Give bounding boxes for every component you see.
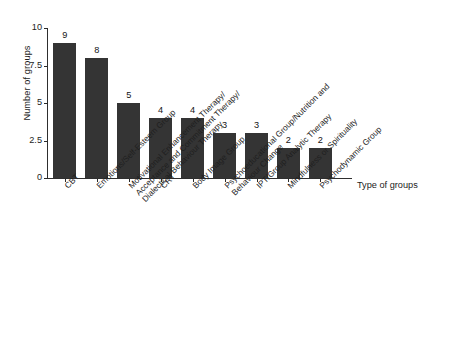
bar-value-label: 5 [117,91,140,100]
y-tick-label: 5 [16,98,42,107]
y-tick-label: 10 [16,23,42,32]
x-tick-mark [288,179,289,183]
y-tick-mark [44,141,48,142]
y-tick-label: 0 [16,173,42,182]
bar-value-label: 3 [245,121,268,130]
bar-chart-figure: Number of groups 02.557.510 985443322 CB… [0,0,457,337]
y-tick-mark [44,66,48,67]
y-tick-label: 7.5 [16,61,42,70]
bar-group: 9 [53,28,76,178]
y-tick-mark [44,178,48,179]
y-axis-ticks: 02.557.510 [16,0,42,337]
x-tick-mark [161,179,162,183]
bar[interactable] [53,43,76,178]
bar-value-label: 9 [53,31,76,40]
x-axis-title: Type of groups [357,180,418,190]
y-tick-mark [44,28,48,29]
x-tick-mark [65,179,66,183]
y-tick-label: 2.5 [16,136,42,145]
x-tick-mark [193,179,194,183]
y-tick-mark [44,103,48,104]
x-tick-mark [129,179,130,183]
bar-value-label: 8 [85,46,108,55]
x-tick-mark [257,179,258,183]
bar-group: 8 [85,28,108,178]
x-tick-mark [225,179,226,183]
x-tick-mark [97,179,98,183]
x-tick-mark [320,179,321,183]
bar[interactable] [85,58,108,178]
